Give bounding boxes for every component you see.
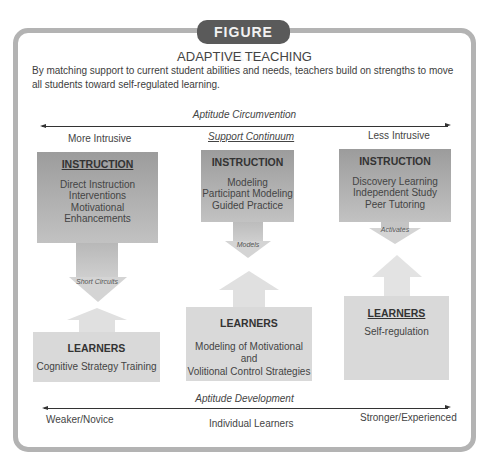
instruction-box-direct: INSTRUCTION Direct Instruction Intervent… — [37, 152, 158, 243]
column2-up-arrow-icon — [219, 271, 279, 290]
instruction-item: Discovery Learning — [339, 176, 451, 188]
bottom-axis-right-arrowhead-icon — [445, 405, 451, 409]
instruction-box-modeling: INSTRUCTION Modeling Participant Modelin… — [201, 150, 294, 222]
instruction-item: Direct Instruction — [37, 179, 158, 191]
instruction-item: Modeling — [201, 177, 294, 189]
column1-up-arrow-stem — [79, 320, 115, 332]
bottom-axis-left-arrowhead-icon — [42, 406, 48, 410]
learners-item: Modeling of Motivational and — [186, 341, 312, 366]
top-axis-right-label: Less Intrusive — [368, 130, 430, 141]
instruction-heading: INSTRUCTION — [37, 159, 158, 171]
bottom-axis-right-label: Stronger/Experienced — [360, 412, 457, 423]
learners-box-self-regulation: LEARNERS Self-regulation — [344, 296, 449, 380]
bottom-axis-line — [44, 408, 448, 409]
learners-heading: LEARNERS — [344, 307, 449, 320]
top-axis-left-label: More Intrusive — [68, 133, 131, 144]
column3-up-arrow-stem — [384, 277, 410, 296]
learners-box-cognitive: LEARNERS Cognitive Strategy Training — [33, 332, 160, 382]
top-axis-center-label: Support Continuum — [208, 131, 294, 142]
top-axis-label: Aptitude Circumvention — [0, 109, 489, 120]
instruction-item: Interventions — [37, 190, 158, 202]
instruction-item: Motivational Enhancements — [37, 202, 158, 225]
bottom-axis-center-label: Individual Learners — [209, 418, 294, 429]
learners-box-modeling: LEARNERS Modeling of Motivational and Vo… — [186, 307, 312, 381]
instruction-heading: INSTRUCTION — [201, 157, 294, 169]
top-axis-left-arrowhead-icon — [40, 124, 46, 128]
learners-heading: LEARNERS — [33, 342, 160, 355]
bottom-axis-left-label: Weaker/Novice — [46, 414, 114, 425]
short-circuits-arrow-stem — [76, 243, 118, 278]
top-axis-line — [42, 126, 448, 127]
short-circuits-label: Short Circuits — [67, 278, 127, 285]
models-label: Models — [228, 241, 268, 248]
instruction-item: Independent Study — [339, 187, 451, 199]
instruction-item: Peer Tutoring — [339, 199, 451, 211]
figure-title: ADAPTIVE TEACHING — [0, 49, 489, 64]
figure-description: By matching support to current student a… — [32, 64, 462, 91]
learners-heading: LEARNERS — [186, 317, 312, 330]
figure-badge: FIGURE 11.1 — [197, 20, 290, 44]
instruction-heading: INSTRUCTION — [339, 156, 451, 168]
learners-item: Volitional Control Strategies — [186, 366, 312, 379]
instruction-item: Participant Modeling — [201, 188, 294, 200]
activates-label: Activates — [375, 226, 415, 233]
column3-up-arrow-icon — [372, 255, 422, 277]
bottom-axis-label: Aptitude Development — [0, 393, 489, 404]
top-axis-right-arrowhead-icon — [445, 123, 451, 127]
instruction-item: Guided Practice — [201, 200, 294, 212]
learners-item: Cognitive Strategy Training — [33, 361, 160, 374]
column2-up-arrow-stem — [233, 290, 265, 307]
models-arrow-stem — [233, 222, 263, 242]
learners-item: Self-regulation — [344, 326, 449, 339]
instruction-box-discovery: INSTRUCTION Discovery Learning Independe… — [339, 149, 451, 222]
column1-up-arrow-icon — [67, 308, 127, 320]
